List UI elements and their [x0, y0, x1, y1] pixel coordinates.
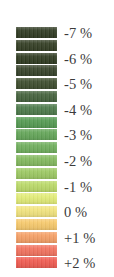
legend-tick-label: -2 % — [64, 154, 114, 168]
legend-swatch — [16, 129, 57, 140]
legend-swatch — [16, 65, 57, 76]
legend-swatch — [16, 181, 57, 192]
legend-swatch-fill — [16, 65, 57, 76]
color-scale-legend: -7 %-6 %-5 %-4 %-3 %-2 %-1 %0 %+1 %+2 % — [0, 0, 114, 277]
legend-swatch — [16, 40, 57, 51]
legend-swatch — [16, 104, 57, 115]
legend-swatch-fill — [16, 219, 57, 230]
legend-tick-label: -4 % — [64, 103, 114, 117]
legend-swatch — [16, 193, 57, 204]
legend-swatch — [16, 27, 57, 38]
legend-swatch-fill — [16, 232, 57, 243]
legend-swatch — [16, 78, 57, 89]
legend-swatch-fill — [16, 193, 57, 204]
legend-swatch — [16, 155, 57, 166]
legend-swatch — [16, 219, 57, 230]
legend-swatch-fill — [16, 78, 57, 89]
legend-tick-label: -5 % — [64, 77, 114, 91]
legend-swatch-fill — [16, 129, 57, 140]
legend-swatch-fill — [16, 168, 57, 179]
legend-tick-label: -6 % — [64, 52, 114, 66]
legend-swatch — [16, 53, 57, 64]
legend-swatch-fill — [16, 245, 57, 256]
legend-swatch — [16, 91, 57, 102]
legend-tick-label: +2 % — [64, 256, 114, 270]
legend-swatch-fill — [16, 53, 57, 64]
legend-tick-label: -3 % — [64, 128, 114, 142]
legend-swatch-fill — [16, 27, 57, 38]
legend-swatch — [16, 232, 57, 243]
legend-swatch-fill — [16, 91, 57, 102]
legend-tick-label: +1 % — [64, 231, 114, 245]
legend-swatch-fill — [16, 104, 57, 115]
legend-swatch-column — [16, 27, 57, 269]
legend-swatch-fill — [16, 206, 57, 217]
legend-tick-label: -7 % — [64, 26, 114, 40]
legend-swatch-fill — [16, 40, 57, 51]
legend-swatch-fill — [16, 181, 57, 192]
legend-swatch-fill — [16, 142, 57, 153]
legend-swatch-fill — [16, 155, 57, 166]
legend-swatch — [16, 142, 57, 153]
legend-label-column: -7 %-6 %-5 %-4 %-3 %-2 %-1 %0 %+1 %+2 % — [64, 0, 114, 277]
legend-tick-label: -1 % — [64, 180, 114, 194]
legend-swatch — [16, 206, 57, 217]
legend-swatch-fill — [16, 117, 57, 128]
legend-tick-label: 0 % — [64, 205, 114, 219]
legend-swatch — [16, 245, 57, 256]
legend-swatch — [16, 257, 57, 268]
legend-swatch-fill — [16, 257, 57, 268]
legend-swatch — [16, 117, 57, 128]
legend-swatch — [16, 168, 57, 179]
